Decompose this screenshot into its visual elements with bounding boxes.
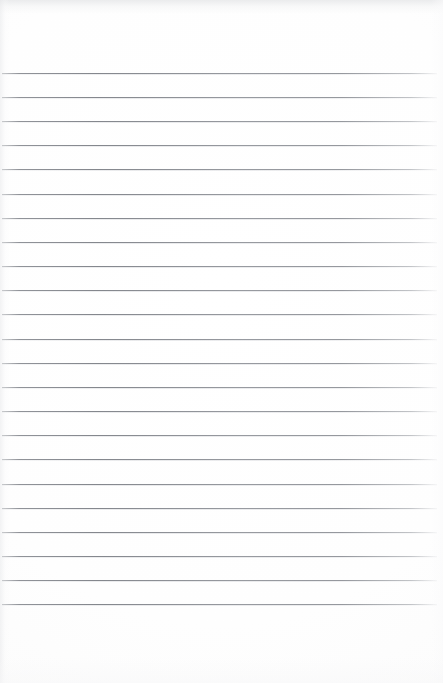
rule-line [2, 411, 437, 412]
rule-line [2, 435, 437, 436]
rule-line [2, 290, 437, 291]
rule-line [2, 218, 437, 219]
rule-line [2, 532, 437, 533]
rule-line [2, 604, 437, 605]
rule-line [2, 580, 437, 581]
rule-line [2, 387, 437, 388]
rule-line [2, 363, 437, 364]
paper-page [0, 0, 443, 683]
ruling-lines-group [0, 0, 443, 683]
rule-line [2, 508, 437, 509]
rule-line [2, 484, 437, 485]
rule-line [2, 339, 437, 340]
rule-line [2, 556, 437, 557]
rule-line [2, 242, 437, 243]
rule-line [2, 266, 437, 267]
rule-line [2, 97, 437, 98]
rule-line [2, 145, 437, 146]
rule-line [2, 169, 437, 170]
rule-line [2, 121, 437, 122]
rule-line [2, 194, 437, 195]
rule-line [2, 459, 437, 460]
rule-line [2, 314, 437, 315]
rule-line [2, 73, 437, 74]
